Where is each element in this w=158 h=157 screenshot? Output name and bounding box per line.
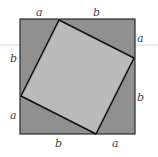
label-right-b: b [137,91,144,104]
label-top-b: b [93,6,100,19]
label-left-b: b [10,52,17,65]
pythagorean-diagram: a b a b b a b a [0,0,158,157]
label-bottom-b: b [55,137,62,150]
label-bottom-a: a [112,137,119,150]
label-top-a: a [36,6,43,19]
label-left-a: a [10,109,17,122]
label-right-a: a [137,32,144,45]
